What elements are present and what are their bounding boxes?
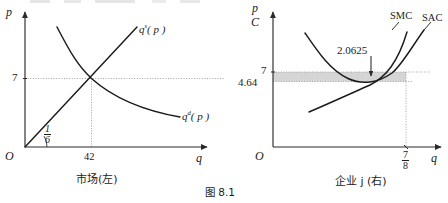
right-y-tick-label-464: 4.64 (238, 77, 257, 88)
left-y-tick-label-7: 7 (12, 72, 18, 83)
figure-8-1: p O 7 42 q 1 6 qs( p ) qd( p ) 市场(左) p C… (0, 0, 448, 203)
left-panel-market (23, 12, 224, 147)
supply-label-argument: ( p ) (147, 23, 165, 35)
sac-minimum-annotation: 2.0625 (337, 45, 367, 56)
sac-curve-label: SAC (422, 13, 442, 24)
left-origin-label: O (5, 150, 14, 162)
right-panel-firm (271, 12, 441, 149)
demand-curve-label: qd( p ) (182, 110, 209, 122)
smc-curve-label: SMC (390, 11, 412, 22)
left-x-axis-label: q (196, 152, 202, 164)
right-y-axis-label-c: C (251, 16, 259, 28)
slope-denominator: 6 (44, 135, 51, 145)
right-x-tick-denominator: 8 (402, 161, 409, 171)
right-origin-label: O (255, 150, 264, 162)
slope-fraction: 1 6 (44, 124, 51, 145)
right-y-tick-label-7: 7 (261, 65, 267, 76)
supply-curve (25, 27, 137, 147)
right-y-axis-label-p: p (252, 2, 258, 14)
right-x-tick-fraction: 7 8 (402, 150, 409, 171)
left-panel-title: 市场(左) (76, 174, 118, 185)
smc-leader-line (392, 22, 399, 30)
demand-label-argument: ( p ) (191, 110, 209, 122)
figure-caption: 图 8.1 (205, 187, 235, 198)
right-panel-title: 企业 j (右) (335, 176, 387, 187)
supply-curve-label: qs( p ) (139, 23, 165, 35)
demand-curve (57, 27, 180, 117)
left-y-axis-label: p (6, 6, 12, 18)
right-x-axis-label: q (431, 152, 437, 164)
figure-canvas (0, 0, 448, 203)
left-x-tick-label-42: 42 (84, 152, 95, 163)
